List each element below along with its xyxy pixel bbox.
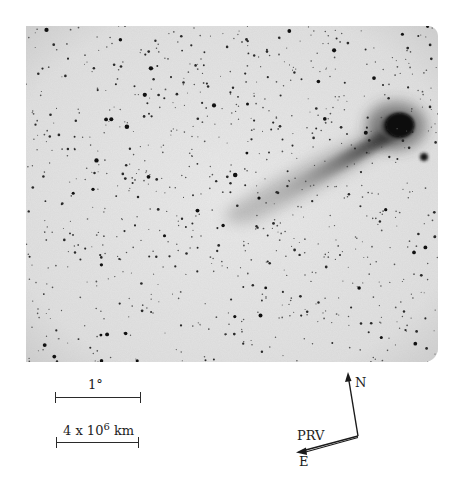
star	[325, 68, 326, 69]
star	[380, 322, 381, 323]
star	[366, 127, 368, 129]
star	[126, 252, 127, 253]
star	[286, 275, 287, 276]
star	[279, 239, 281, 241]
star	[404, 147, 405, 148]
star	[411, 108, 413, 110]
star	[371, 246, 373, 248]
star	[111, 43, 113, 45]
star	[325, 254, 327, 256]
star	[99, 334, 102, 337]
star	[382, 84, 384, 86]
star	[215, 180, 217, 182]
star	[315, 303, 316, 304]
star	[379, 220, 381, 222]
star	[67, 58, 69, 60]
star	[361, 185, 362, 186]
star	[49, 113, 52, 116]
star	[335, 69, 336, 70]
star	[193, 27, 195, 29]
star	[325, 122, 327, 124]
star	[233, 333, 236, 336]
star	[119, 302, 121, 304]
star	[96, 281, 98, 283]
star	[331, 322, 332, 323]
star	[44, 200, 46, 202]
star	[268, 110, 269, 111]
star	[266, 261, 267, 262]
star	[46, 141, 47, 142]
star	[196, 117, 199, 120]
star	[130, 335, 131, 336]
star	[199, 214, 201, 216]
star	[293, 238, 294, 239]
star	[410, 51, 412, 53]
star	[122, 61, 123, 62]
plate-grain	[26, 26, 438, 362]
star	[95, 360, 96, 361]
star	[437, 257, 438, 258]
star	[344, 82, 346, 84]
star	[428, 214, 430, 216]
star	[272, 222, 275, 225]
star	[74, 245, 76, 247]
star	[181, 50, 183, 52]
star	[282, 291, 284, 293]
star	[300, 206, 302, 208]
star	[267, 260, 269, 262]
star	[282, 138, 284, 140]
star	[61, 310, 62, 311]
star	[351, 144, 353, 146]
star	[295, 68, 296, 69]
star	[172, 294, 173, 295]
star	[221, 108, 222, 109]
star	[176, 129, 177, 130]
star	[171, 130, 173, 132]
star	[291, 115, 293, 117]
star	[313, 67, 314, 68]
star	[207, 116, 208, 117]
star	[354, 163, 355, 164]
star	[293, 312, 294, 313]
star	[416, 245, 418, 247]
star	[379, 281, 380, 282]
star	[115, 195, 117, 197]
star	[48, 66, 50, 68]
star	[336, 313, 338, 315]
star	[175, 107, 176, 108]
star	[168, 33, 169, 34]
star	[124, 177, 127, 180]
star	[260, 66, 261, 67]
star	[433, 236, 435, 238]
star	[365, 49, 367, 51]
star	[371, 193, 372, 194]
star	[315, 107, 318, 110]
star	[86, 167, 88, 169]
star	[195, 215, 196, 216]
star	[242, 343, 244, 345]
star	[297, 206, 299, 208]
star	[28, 361, 29, 362]
star	[209, 187, 211, 189]
star	[395, 217, 396, 218]
star	[28, 358, 29, 359]
star	[369, 145, 371, 147]
star	[272, 228, 273, 229]
star	[428, 130, 429, 131]
star	[304, 338, 306, 340]
star	[411, 294, 412, 295]
star	[222, 33, 223, 34]
star	[185, 177, 187, 179]
star	[202, 73, 203, 74]
star	[259, 153, 260, 154]
star	[148, 113, 150, 115]
star	[61, 148, 63, 150]
star	[372, 163, 374, 165]
star	[402, 316, 403, 317]
star	[328, 35, 330, 37]
star	[104, 117, 108, 121]
star	[329, 139, 331, 141]
star	[355, 248, 356, 249]
star	[109, 109, 110, 110]
star	[323, 256, 324, 257]
